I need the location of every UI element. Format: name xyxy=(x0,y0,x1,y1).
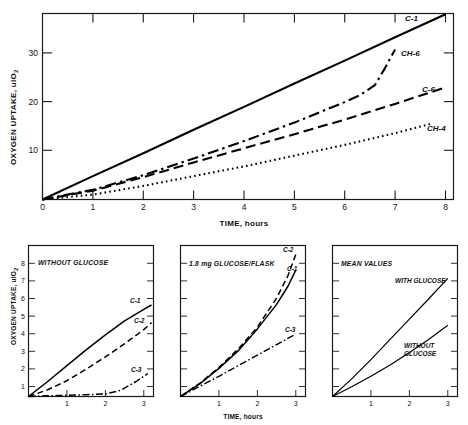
subleft-series-c2-label: C-2 xyxy=(134,317,145,324)
subright-x-ticklabel-3: 3 xyxy=(446,400,450,407)
subright-series-with-glucose-label: WITH GLUCOSE xyxy=(395,277,446,284)
subleft-panel-title: WITHOUT GLUCOSE xyxy=(38,259,108,266)
subright-x-ticklabel-2: 2 xyxy=(407,400,411,407)
main-x-ticklabel-0: 0 xyxy=(40,202,45,212)
submid-series-c2-label: C-2 xyxy=(283,246,294,253)
subleft-x-ticklabel-2: 2 xyxy=(103,400,107,407)
subleft-y-ticklabel-3: 3 xyxy=(21,348,25,355)
main-y-axis-title: OXYGEN UPTAKE, ulO2 xyxy=(9,69,19,165)
subplot-mean-values: 1 2 3 MEAN VALUES WITH GLUCOSE WITHOUT G… xyxy=(333,246,458,408)
main-y-axis-title-text: OXYGEN UPTAKE, ulO xyxy=(9,73,18,165)
main-x-ticklabel-7: 7 xyxy=(393,202,398,212)
submid-x-ticklabel-2: 2 xyxy=(255,400,259,407)
submid-series-c2-line xyxy=(181,254,296,396)
submid-x-ticklabel-1: 1 xyxy=(217,400,221,407)
subplot-without-glucose: OXYGEN UPTAKE, ulO2 xyxy=(10,246,154,408)
subleft-y-ticklabel-1: 1 xyxy=(21,383,25,390)
main-x-ticklabel-4: 4 xyxy=(242,202,247,212)
subleft-y-ticklabel-6: 6 xyxy=(21,295,25,302)
subleft-series-c3-line xyxy=(29,374,148,397)
subleft-y-ticklabel-7: 7 xyxy=(21,277,25,284)
subright-x-ticklabels: 1 2 3 xyxy=(369,400,450,407)
subleft-y-ticklabel-8: 8 xyxy=(21,260,25,267)
svg-text:OXYGEN UPTAKE, ulO2: OXYGEN UPTAKE, ulO2 xyxy=(10,267,19,345)
subright-plot-frame xyxy=(333,246,458,397)
subleft-y-ticklabel-4: 4 xyxy=(21,330,25,337)
main-x-axis-title: TIME, hours xyxy=(219,219,268,228)
subplot-with-glucose-flask: 1 2 3 TIME, hours 1.8 mg GLUCOSE/FLASK C… xyxy=(181,246,306,422)
main-series-ch4-label: CH-4 xyxy=(427,124,446,133)
subright-panel-title: MEAN VALUES xyxy=(341,260,392,267)
subleft-y-axis-title-sub: 2 xyxy=(13,267,19,271)
submid-series-c1-label: C-1 xyxy=(287,265,298,272)
main-y-ticklabel-30: 30 xyxy=(29,48,39,58)
main-x-ticklabels: 0 1 2 3 4 5 6 7 8 xyxy=(40,202,448,212)
subleft-x-ticklabel-3: 3 xyxy=(142,400,146,407)
submid-x-ticklabel-3: 3 xyxy=(294,400,298,407)
subright-x-ticks xyxy=(371,390,448,397)
submid-panel-title: 1.8 mg GLUCOSE/FLASK xyxy=(189,260,275,268)
subright-x-ticklabel-1: 1 xyxy=(369,400,373,407)
main-series-c1-line xyxy=(43,14,446,199)
submid-series-c3-line xyxy=(181,334,296,397)
figure-svg: OXYGEN UPTAKE, ulO2 10 20 30 xyxy=(0,0,468,425)
submid-series-c1-line xyxy=(181,270,296,396)
svg-text:OXYGEN UPTAKE, ulO2: OXYGEN UPTAKE, ulO2 xyxy=(9,69,19,165)
subleft-y-axis-title-text: OXYGEN UPTAKE, ulO xyxy=(10,271,18,345)
subleft-y-ticklabel-2: 2 xyxy=(21,365,25,372)
submid-x-ticklabels: 1 2 3 xyxy=(217,400,298,407)
main-series-c6-line xyxy=(43,87,446,199)
subleft-y-axis-title: OXYGEN UPTAKE, ulO2 xyxy=(10,267,19,345)
subleft-y-ticklabels: 1 2 3 4 5 6 7 8 xyxy=(21,260,25,390)
main-x-ticklabel-6: 6 xyxy=(342,202,347,212)
subleft-series-c1-label: C-1 xyxy=(130,297,141,304)
subright-series-without-glucose-label-line2: GLUCOSE xyxy=(404,350,437,357)
main-x-ticklabel-5: 5 xyxy=(292,202,297,212)
main-series-ch6-label: CH-6 xyxy=(401,49,420,58)
main-y-ticklabel-10: 10 xyxy=(29,145,39,155)
submid-y-ticks xyxy=(181,263,306,386)
subleft-series-c2-line xyxy=(29,323,152,397)
main-x-ticklabel-1: 1 xyxy=(91,202,96,212)
submid-x-ticks xyxy=(219,390,296,397)
subleft-y-ticklabel-5: 5 xyxy=(21,313,25,320)
main-series-c6-label: C-6 xyxy=(422,85,435,94)
submid-x-axis-title: TIME, hours xyxy=(223,413,263,421)
subleft-series-c3-label: C-3 xyxy=(131,366,142,373)
submid-series-c3-label: C-3 xyxy=(285,326,296,333)
figure-container: OXYGEN UPTAKE, ulO2 10 20 30 xyxy=(0,0,468,425)
main-series-c1-label: C-1 xyxy=(405,14,418,23)
subleft-x-ticklabel-1: 1 xyxy=(65,400,69,407)
main-y-ticklabel-20: 20 xyxy=(29,97,39,107)
main-chart: OXYGEN UPTAKE, ulO2 10 20 30 xyxy=(9,14,454,229)
main-x-ticklabel-8: 8 xyxy=(443,202,448,212)
main-x-ticklabel-2: 2 xyxy=(141,202,146,212)
main-y-ticklabels: 10 20 30 xyxy=(29,48,39,155)
main-y-ticks xyxy=(43,53,454,150)
main-x-ticklabel-3: 3 xyxy=(191,202,196,212)
subleft-x-ticklabels: 1 2 3 xyxy=(65,400,146,407)
subright-series-without-glucose-line xyxy=(333,325,448,396)
subright-series-without-glucose-label-line1: WITHOUT xyxy=(404,342,435,349)
main-y-axis-title-sub: 2 xyxy=(13,69,19,73)
main-series-ch6-line xyxy=(43,49,396,199)
